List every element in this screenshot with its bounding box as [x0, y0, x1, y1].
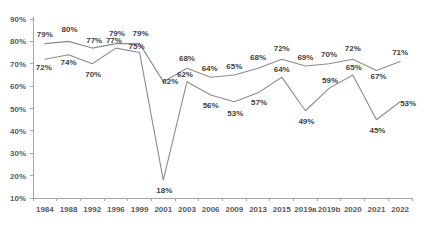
point-label: 57% — [251, 98, 267, 107]
point-label: 79% — [133, 29, 149, 38]
chart-container: 90%80%70%60%50%40%30%20%10% 198419881992… — [0, 0, 436, 228]
point-label: 59% — [322, 76, 338, 85]
point-label: 53% — [227, 109, 243, 118]
x-tick-label: 1996 — [107, 205, 125, 214]
x-tick-label: 2013 — [249, 205, 267, 214]
point-label: 65% — [226, 62, 242, 71]
point-label: 65% — [346, 63, 362, 72]
point-label: 77% — [106, 36, 122, 45]
y-tick-label: 30% — [10, 149, 26, 158]
x-tick-label: 2019b — [318, 205, 341, 214]
x-axis-ticks: 1984198819921996199920012003200620092013… — [33, 198, 412, 214]
point-label: 80% — [62, 25, 78, 34]
x-tick-label: 1992 — [83, 205, 101, 214]
x-tick-label: 2019a — [294, 205, 317, 214]
point-label: 71% — [392, 48, 408, 57]
point-label: 53% — [400, 99, 416, 108]
point-label: 49% — [298, 117, 314, 126]
point-label: 72% — [345, 44, 361, 53]
x-tick-label: 1999 — [131, 205, 149, 214]
x-tick-label: 2020 — [344, 205, 362, 214]
point-label: 18% — [156, 186, 172, 195]
x-tick-label: 2003 — [178, 205, 196, 214]
point-label: 79% — [37, 30, 53, 39]
point-label: 74% — [61, 58, 77, 67]
line-chart: 90%80%70%60%50%40%30%20%10% 198419881992… — [0, 0, 436, 228]
point-label: 70% — [85, 70, 101, 79]
point-label: 62% — [177, 70, 193, 79]
x-tick-label: 2006 — [202, 205, 220, 214]
x-tick-label: 2001 — [154, 205, 172, 214]
point-label: 72% — [274, 44, 290, 53]
point-label: 67% — [370, 72, 386, 81]
point-label: 45% — [369, 126, 385, 135]
y-axis-ticks: 90%80%70%60%50%40%30%20%10% — [10, 15, 33, 203]
y-tick-label: 80% — [10, 37, 26, 46]
point-label: 72% — [36, 63, 52, 72]
x-tick-label: 2015 — [273, 205, 291, 214]
x-tick-label: 2022 — [391, 205, 409, 214]
data-point-labels: 79%80%77%79%79%62%68%64%65%68%72%69%70%7… — [36, 25, 416, 195]
x-tick-label: 1984 — [36, 205, 54, 214]
x-tick-label: 2009 — [225, 205, 243, 214]
point-label: 69% — [297, 53, 313, 62]
point-label: 62% — [162, 77, 178, 86]
y-tick-label: 60% — [10, 82, 26, 91]
point-label: 77% — [86, 36, 102, 45]
y-tick-label: 70% — [10, 60, 26, 69]
y-tick-label: 90% — [10, 15, 26, 24]
x-tick-label: 1988 — [60, 205, 78, 214]
point-label: 68% — [250, 53, 266, 62]
point-label: 75% — [129, 42, 145, 51]
point-label: 56% — [203, 101, 219, 110]
x-tick-label: 2021 — [368, 205, 386, 214]
point-label: 64% — [202, 64, 218, 73]
y-tick-label: 10% — [10, 194, 26, 203]
y-tick-label: 20% — [10, 172, 26, 181]
point-label: 70% — [321, 50, 337, 59]
y-tick-label: 50% — [10, 105, 26, 114]
point-label: 68% — [179, 54, 195, 63]
y-tick-label: 40% — [10, 127, 26, 136]
point-label: 64% — [274, 65, 290, 74]
